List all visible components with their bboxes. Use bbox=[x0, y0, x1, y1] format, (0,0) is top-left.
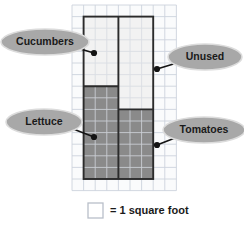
garden-plot-diagram: Cucumbers Unused Lettuce Tomatoes = 1 sq… bbox=[0, 0, 244, 226]
leader-dot-lettuce bbox=[91, 134, 97, 140]
garden-plot-figure: Cucumbers Unused Lettuce Tomatoes = 1 sq… bbox=[0, 0, 244, 226]
callout-text-tomatoes: Tomatoes bbox=[180, 123, 229, 135]
legend: = 1 square foot bbox=[88, 203, 189, 218]
callout-tomatoes[interactable]: Tomatoes bbox=[163, 117, 244, 143]
callout-text-lettuce: Lettuce bbox=[25, 115, 63, 127]
callout-lettuce[interactable]: Lettuce bbox=[6, 109, 82, 135]
leader-dot-cucumbers bbox=[91, 50, 97, 56]
callout-text-unused: Unused bbox=[186, 50, 225, 62]
legend-label: = 1 square foot bbox=[110, 204, 189, 216]
callout-text-cucumbers: Cucumbers bbox=[16, 35, 74, 47]
leader-dot-tomatoes bbox=[154, 142, 160, 148]
legend-swatch-icon bbox=[88, 203, 103, 218]
callout-unused[interactable]: Unused bbox=[168, 44, 242, 70]
leader-dot-unused bbox=[154, 66, 160, 72]
callout-cucumbers[interactable]: Cucumbers bbox=[1, 29, 89, 55]
